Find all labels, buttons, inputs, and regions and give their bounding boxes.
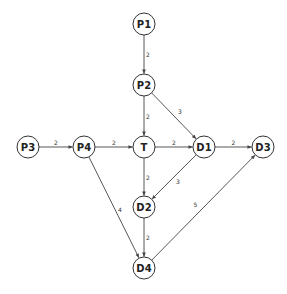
edge-d1-d2: 3 (152, 155, 196, 199)
edge-arrow (152, 155, 255, 260)
edge-arrow (152, 155, 196, 199)
node-label: D4 (136, 263, 151, 274)
edge-p3-p4: 2 (39, 139, 73, 148)
node-t: T (133, 136, 155, 158)
node-d2: D2 (133, 196, 155, 218)
edge-weight-label: 3 (176, 178, 180, 185)
edge-arrow (89, 157, 139, 258)
edge-weight-label: 2 (146, 234, 150, 241)
edge-weight-label: 2 (146, 174, 150, 181)
node-p3: P3 (17, 136, 39, 158)
node-d4: D4 (133, 257, 155, 279)
node-label: D2 (136, 202, 151, 213)
graph-diagram: 223222223425 P1P2P3P4TD1D3D2D4 (0, 0, 287, 294)
node-label: D1 (196, 142, 211, 153)
node-p1: P1 (133, 13, 155, 35)
node-label: P4 (77, 142, 91, 153)
edge-p1-p2: 2 (144, 35, 150, 74)
node-d3: D3 (252, 136, 274, 158)
edge-p4-t: 2 (95, 139, 133, 148)
node-label: D3 (255, 142, 270, 153)
node-label: P2 (137, 80, 151, 91)
edge-arrow (152, 93, 196, 139)
edge-weight-label: 2 (54, 139, 58, 146)
edge-weight-label: 2 (146, 113, 150, 120)
edge-t-d1: 2 (155, 139, 193, 148)
node-label: T (141, 142, 148, 153)
edge-weight-label: 2 (172, 139, 176, 146)
node-d1: D1 (193, 136, 215, 158)
node-p4: P4 (73, 136, 95, 158)
edge-d4-d3: 5 (152, 155, 255, 260)
edge-weight-label: 2 (112, 139, 116, 146)
edge-p2-t: 2 (144, 96, 150, 136)
edge-p2-d1: 3 (152, 93, 196, 139)
edge-weight-label: 2 (232, 139, 236, 146)
edge-d1-d3: 2 (215, 139, 252, 148)
edge-t-d2: 2 (144, 158, 150, 196)
node-label: P3 (21, 142, 35, 153)
edge-weight-label: 5 (194, 201, 198, 208)
node-label: P1 (137, 19, 151, 30)
node-p2: P2 (133, 74, 155, 96)
edge-p4-d4: 4 (89, 157, 139, 258)
edge-weight-label: 3 (178, 108, 182, 115)
edge-weight-label: 2 (146, 51, 150, 58)
edge-d2-d4: 2 (144, 218, 150, 257)
edge-weight-label: 4 (118, 206, 122, 213)
